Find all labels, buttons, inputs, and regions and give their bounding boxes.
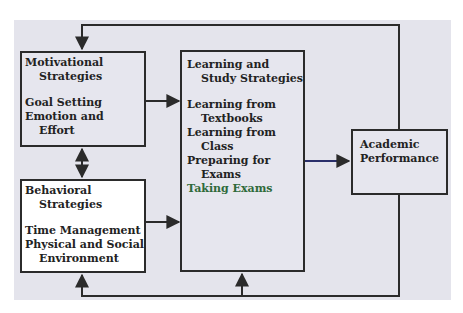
node-item: Taking Exams <box>187 182 303 196</box>
node-item: Environment <box>25 252 144 266</box>
node-item: Time Management <box>25 224 144 238</box>
node-title: Behavioral <box>25 184 144 198</box>
node-item: Exams <box>187 168 303 182</box>
node-academic-performance: Academic Performance <box>351 129 448 195</box>
node-title: Strategies <box>25 198 144 212</box>
node-item: Learning from <box>187 98 303 112</box>
node-title: Performance <box>360 152 446 166</box>
node-motivational-strategies: Motivational Strategies Goal Setting Emo… <box>20 51 146 147</box>
node-item: Preparing for <box>187 154 303 168</box>
node-title: Strategies <box>25 70 144 84</box>
node-behavioral-strategies: Behavioral Strategies Time Management Ph… <box>20 179 146 273</box>
node-title: Academic <box>360 138 446 152</box>
node-item: Effort <box>25 124 144 138</box>
node-item: Physical and Social <box>25 238 144 252</box>
node-title: Learning and <box>187 58 303 72</box>
node-title: Motivational <box>25 56 144 70</box>
node-item: Learning from <box>187 126 303 140</box>
node-item: Class <box>187 140 303 154</box>
node-title: Study Strategies <box>187 72 303 86</box>
node-item: Goal Setting <box>25 96 144 110</box>
node-item: Textbooks <box>187 112 303 126</box>
diagram-canvas: Motivational Strategies Goal Setting Emo… <box>0 0 463 313</box>
node-item: Emotion and <box>25 110 144 124</box>
node-learning-study-strategies: Learning and Study Strategies Learning f… <box>180 50 305 272</box>
